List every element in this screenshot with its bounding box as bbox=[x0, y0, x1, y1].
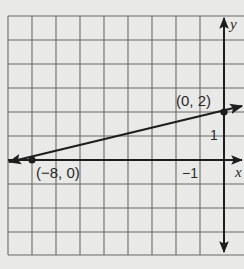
y-axis-label: y bbox=[228, 16, 237, 32]
coordinate-graph: y x −1 1 (−8, 0) (0, 2) bbox=[0, 0, 244, 269]
point-label-a: (−8, 0) bbox=[36, 164, 80, 181]
x-axis-label: x bbox=[234, 164, 242, 180]
grid bbox=[8, 16, 244, 255]
point-neg8-0 bbox=[28, 156, 35, 163]
point-label-b: (0, 2) bbox=[176, 92, 211, 109]
x-tick-label: −1 bbox=[182, 165, 198, 181]
y-tick-label: 1 bbox=[210, 127, 218, 143]
point-0-2 bbox=[220, 108, 227, 115]
plotted-line bbox=[9, 106, 242, 162]
